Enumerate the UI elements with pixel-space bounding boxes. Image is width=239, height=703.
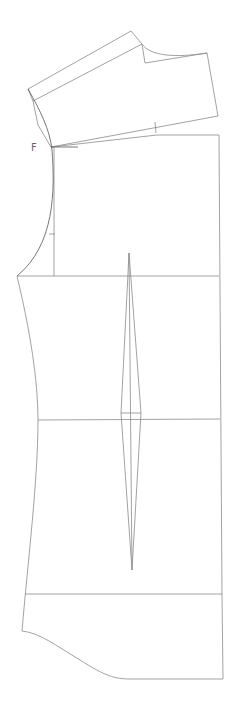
- point-f-label: F: [31, 143, 37, 153]
- shoulder-yoke: [28, 31, 218, 147]
- neck-notch: [142, 44, 207, 63]
- collar-band-outer: [28, 31, 131, 101]
- waist-line: [38, 419, 220, 420]
- bodice: [17, 89, 223, 679]
- collar-band-top: [131, 31, 142, 44]
- neck-curve: [142, 44, 207, 56]
- pattern-diagram: [0, 0, 239, 703]
- collar-band-inner: [33, 44, 142, 101]
- bodice-right-edge: [219, 135, 223, 679]
- shoulder-bottom-edge: [51, 116, 218, 147]
- shoulder-left-edge: [33, 101, 51, 147]
- armhole-curve: [17, 89, 53, 276]
- dart-outline: [121, 253, 141, 570]
- waist-dart: [121, 253, 141, 570]
- shoulder-right-edge: [207, 53, 218, 116]
- shoulder-tick-mark: [155, 122, 156, 133]
- hem-curve: [22, 631, 223, 679]
- side-seam: [17, 276, 38, 631]
- dart-center-line: [129, 253, 132, 570]
